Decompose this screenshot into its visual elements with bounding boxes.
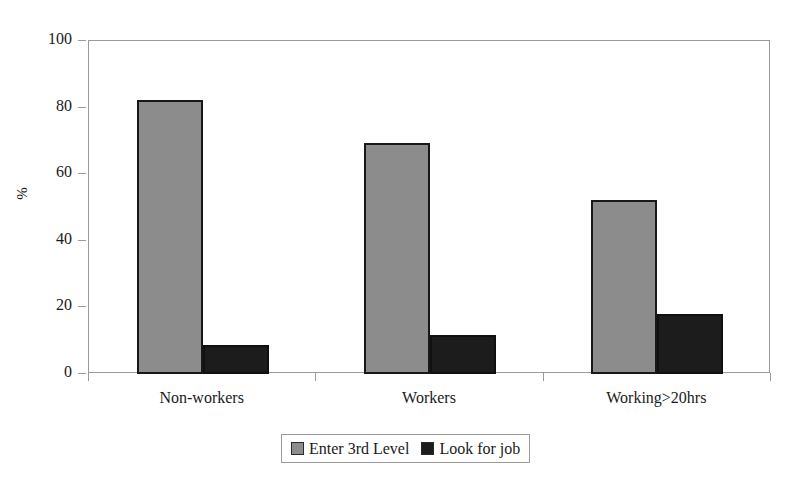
- y-axis-tick-mark: [78, 306, 86, 307]
- chart-legend: Enter 3rd Level Look for job: [281, 434, 530, 463]
- y-axis-tick-label: 100: [48, 29, 72, 49]
- y-axis-tick-mark: [78, 240, 86, 241]
- y-axis-tick-label: 20: [56, 295, 72, 315]
- black-swatch-icon: [421, 442, 434, 455]
- bar: [430, 335, 496, 374]
- y-axis-tick: 100: [0, 40, 86, 41]
- legend-label-0: Enter 3rd Level: [309, 440, 409, 458]
- bars-layer: [89, 41, 769, 372]
- x-axis-tick-mark: [543, 373, 544, 381]
- y-axis-tick-mark: [78, 373, 86, 374]
- bar: [203, 345, 269, 374]
- y-axis-tick-label: 40: [56, 229, 72, 249]
- x-axis-tick-mark: [88, 373, 89, 381]
- x-axis-category-label: Workers: [315, 387, 542, 409]
- bar: [657, 314, 723, 374]
- y-axis-tick-mark: [78, 40, 86, 41]
- x-axis-tick-mark: [770, 373, 771, 381]
- x-axis-category-label: Non-workers: [88, 387, 315, 409]
- y-axis-tick-mark: [78, 173, 86, 174]
- y-axis-tick-mark: [78, 107, 86, 108]
- y-axis-tick: 80: [0, 107, 86, 108]
- bar: [137, 100, 203, 374]
- x-axis-category-label: Working>20hrs: [543, 387, 770, 409]
- y-axis-tick: 60: [0, 173, 86, 174]
- y-axis-tick-label: 0: [64, 362, 72, 382]
- gray-swatch-icon: [291, 442, 304, 455]
- y-axis-tick: 40: [0, 240, 86, 241]
- bar: [591, 200, 657, 374]
- legend-entry-1: Look for job: [421, 440, 520, 458]
- bar-chart-figure: % 020406080100 Non-workersWorkersWorking…: [0, 0, 805, 504]
- plot-area: [88, 40, 770, 373]
- y-axis-tick: 0: [0, 373, 86, 374]
- bar: [364, 143, 430, 374]
- y-axis-tick-label: 80: [56, 96, 72, 116]
- legend-label-1: Look for job: [439, 440, 520, 458]
- y-axis-tick-label: 60: [56, 162, 72, 182]
- y-axis-tick: 20: [0, 306, 86, 307]
- legend-entry-0: Enter 3rd Level: [291, 440, 409, 458]
- x-axis-tick-mark: [315, 373, 316, 381]
